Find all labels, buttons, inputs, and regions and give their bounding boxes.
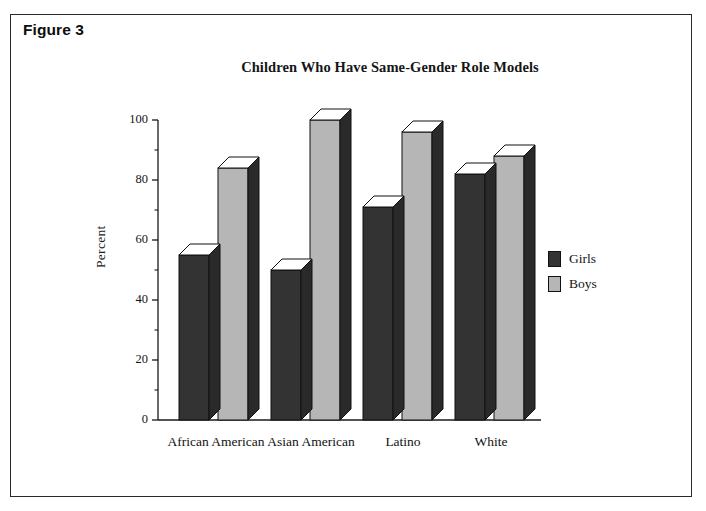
legend-label-boys: Boys xyxy=(569,276,597,292)
legend-item-girls: Girls xyxy=(548,248,597,270)
y-tick-label: 80 xyxy=(120,172,148,187)
chart-plot-area: Percent 020406080100 African AmericanAsi… xyxy=(11,15,693,498)
y-tick-label: 20 xyxy=(120,352,148,367)
legend-swatch-boys-icon xyxy=(548,276,561,292)
y-axis-title-text: Percent xyxy=(93,248,109,268)
figure-frame: Figure 3 Children Who Have Same-Gender R… xyxy=(10,14,692,497)
x-tick-label: White xyxy=(421,434,561,450)
legend-swatch-girls-icon xyxy=(548,251,561,267)
y-tick-label: 0 xyxy=(120,412,148,427)
legend-label-girls: Girls xyxy=(569,251,596,267)
legend-item-boys: Boys xyxy=(548,273,597,295)
figure-page: Figure 3 Children Who Have Same-Gender R… xyxy=(0,0,706,511)
chart-legend: Girls Boys xyxy=(548,248,597,298)
y-tick-label: 100 xyxy=(120,112,148,127)
y-tick-label: 40 xyxy=(120,292,148,307)
y-tick-label: 60 xyxy=(120,232,148,247)
